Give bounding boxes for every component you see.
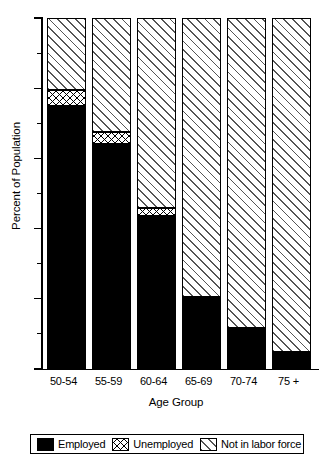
segment-employed[interactable] bbox=[47, 106, 87, 369]
bar-70-74[interactable] bbox=[227, 18, 267, 369]
segment-employed[interactable] bbox=[272, 352, 312, 369]
x-tick-label: 55-59 bbox=[86, 375, 131, 387]
y-axis-title: Percent of Population bbox=[10, 106, 22, 246]
bar-65-69[interactable] bbox=[182, 18, 222, 369]
x-tick-label: 75 + bbox=[266, 375, 311, 387]
x-axis-title: Age Group bbox=[41, 396, 311, 408]
x-tick-label: 70-74 bbox=[221, 375, 266, 387]
x-tick-label: 50-54 bbox=[41, 375, 86, 387]
segment-not-in-labor-force[interactable] bbox=[227, 18, 267, 328]
legend-item-not-in-labor-force: Not in labor force bbox=[200, 438, 301, 451]
x-tick-label: 65-69 bbox=[176, 375, 221, 387]
legend-item-unemployed: Unemployed bbox=[112, 438, 193, 451]
segment-unemployed[interactable] bbox=[137, 208, 177, 217]
segment-not-in-labor-force[interactable] bbox=[92, 18, 132, 132]
segment-unemployed[interactable] bbox=[92, 132, 132, 144]
segment-employed[interactable] bbox=[182, 297, 222, 369]
segment-not-in-labor-force[interactable] bbox=[182, 18, 222, 297]
bar-55-59[interactable] bbox=[92, 18, 132, 369]
legend-label-employed: Employed bbox=[58, 438, 105, 450]
segment-employed[interactable] bbox=[92, 144, 132, 369]
bar-50-54[interactable] bbox=[47, 18, 87, 369]
x-tick-label: 60-64 bbox=[131, 375, 176, 387]
segment-unemployed[interactable] bbox=[47, 90, 87, 106]
segment-not-in-labor-force[interactable] bbox=[137, 18, 177, 208]
chart-legend: Employed Unemployed Not in labor force bbox=[30, 434, 304, 454]
segment-not-in-labor-force[interactable] bbox=[272, 18, 312, 352]
legend-item-employed: Employed bbox=[37, 438, 105, 451]
stacked-bar-chart: Percent of Population Age Group 02040608… bbox=[0, 0, 330, 464]
plot-area bbox=[41, 18, 311, 369]
legend-swatch-employed-icon bbox=[37, 438, 54, 451]
legend-label-unemployed: Unemployed bbox=[133, 438, 193, 450]
bar-75-+[interactable] bbox=[272, 18, 312, 369]
segment-employed[interactable] bbox=[137, 216, 177, 369]
legend-label-not-in-labor-force: Not in labor force bbox=[221, 438, 301, 450]
bar-60-64[interactable] bbox=[137, 18, 177, 369]
segment-employed[interactable] bbox=[227, 328, 267, 369]
legend-swatch-not-in-labor-force-icon bbox=[200, 438, 217, 451]
legend-swatch-unemployed-icon bbox=[112, 438, 129, 451]
segment-not-in-labor-force[interactable] bbox=[47, 18, 87, 90]
